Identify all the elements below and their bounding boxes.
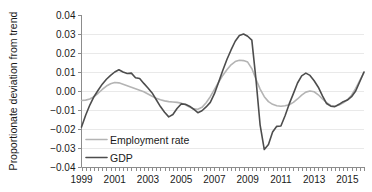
y-tick-label: 0.00 <box>56 86 76 97</box>
y-tick-label: 0.02 <box>56 48 76 59</box>
x-tick-label: 2007 <box>203 174 226 185</box>
line-chart: Proportionate deviation from trend 0.040… <box>0 0 372 192</box>
y-tick-label: 0.04 <box>56 10 76 21</box>
x-axis-tick-labels: 199920012003200520072009201120132015 <box>70 174 359 185</box>
y-axis-title: Proportionate deviation from trend <box>7 11 19 170</box>
legend-label-gdp: GDP <box>110 152 133 164</box>
chart-container: Proportionate deviation from trend 0.040… <box>0 0 372 192</box>
y-tick-label: 0.03 <box>56 29 76 40</box>
x-tick-label: 2013 <box>303 174 326 185</box>
x-tick-label: 2003 <box>137 174 160 185</box>
x-tick-label: 2001 <box>104 174 127 185</box>
x-tick-label: 2011 <box>270 174 292 185</box>
x-tick-label: 2009 <box>237 174 260 185</box>
y-tick-label: −0.01 <box>50 105 76 116</box>
x-tick-label: 2005 <box>170 174 193 185</box>
legend-label-employment-rate: Employment rate <box>110 134 190 146</box>
y-tick-label: −0.04 <box>50 162 76 173</box>
y-tick-label: −0.03 <box>50 143 76 154</box>
x-tick-label: 1999 <box>70 174 93 185</box>
y-tick-label: 0.01 <box>56 67 76 78</box>
x-tick-label: 2015 <box>336 174 359 185</box>
y-tick-label: −0.02 <box>50 124 76 135</box>
